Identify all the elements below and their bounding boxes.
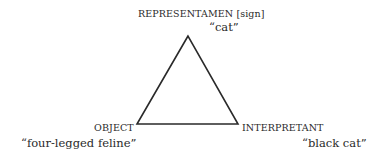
representamen-label: REPRESENTAMEN [sign] <box>138 9 265 19</box>
object-example: “four-legged feline” <box>21 138 136 150</box>
representamen-example: “cat” <box>209 22 239 34</box>
interpretant-label: INTERPRETANT <box>242 123 324 133</box>
interpretant-example: “black cat” <box>302 138 367 150</box>
object-label: OBJECT <box>94 123 134 133</box>
semiotic-triangle-diagram: REPRESENTAMEN [sign] “cat” OBJECT “four-… <box>0 0 378 155</box>
